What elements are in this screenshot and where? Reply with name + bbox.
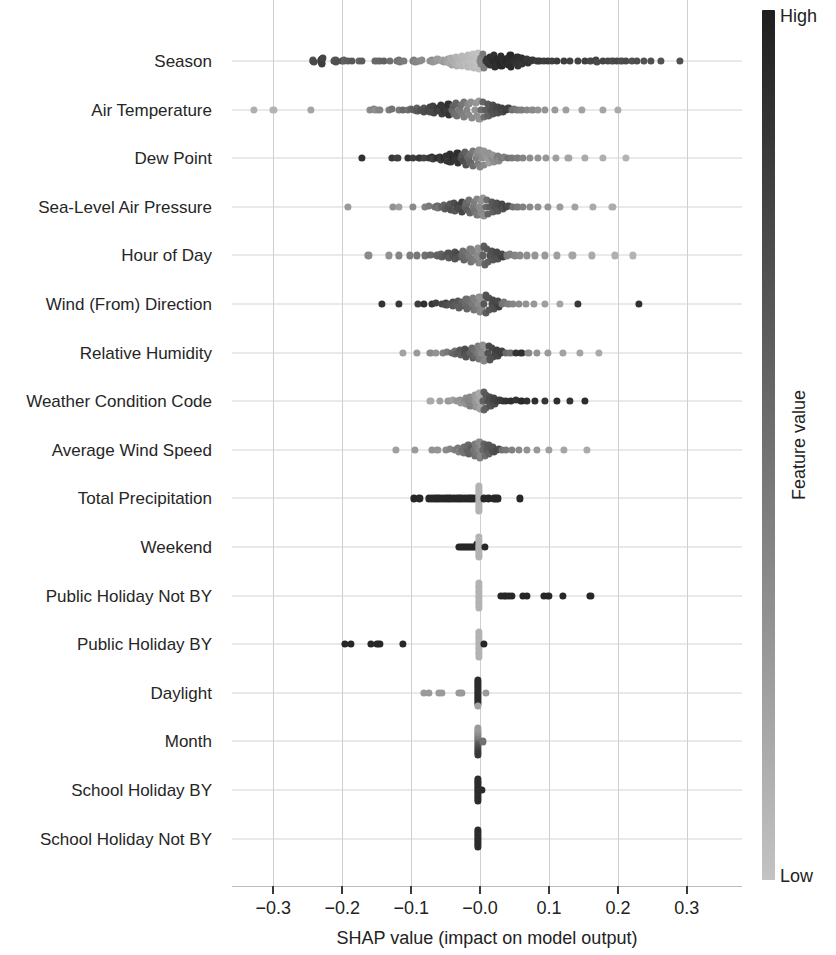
beeswarm-point <box>474 844 481 851</box>
beeswarm-point <box>523 592 530 599</box>
beeswarm-point <box>319 54 326 61</box>
beeswarm-point <box>401 57 408 64</box>
x-axis-tick <box>410 886 412 894</box>
beeswarm-point <box>543 155 550 162</box>
beeswarm-point <box>308 106 315 113</box>
y-axis-label: Relative Humidity <box>80 344 212 361</box>
beeswarm-point <box>475 604 482 611</box>
y-axis-label: Wind (From) Direction <box>46 296 212 313</box>
x-axis-tick-label: −0.3 <box>256 898 292 919</box>
y-axis-label: Season <box>154 53 212 70</box>
shap-beeswarm-figure: SeasonAir TemperatureDew PointSea-Level … <box>0 0 836 955</box>
beeswarm-point <box>533 349 540 356</box>
beeswarm-point <box>523 252 530 259</box>
x-axis-tick-label: 0.3 <box>674 898 699 919</box>
colorbar-low-label: Low <box>780 866 813 887</box>
beeswarm-point <box>418 56 425 63</box>
beeswarm-point <box>599 106 606 113</box>
beeswarm-point <box>534 155 541 162</box>
beeswarm-point <box>581 155 588 162</box>
beeswarm-point <box>376 106 383 113</box>
beeswarm-point <box>344 203 351 210</box>
beeswarm-point <box>478 786 485 793</box>
beeswarm-point <box>556 300 563 307</box>
x-axis: −0.3−0.2−0.1−0.00.10.20.3 SHAP value (im… <box>232 886 742 955</box>
beeswarm-point <box>562 106 569 113</box>
beeswarm-point <box>544 203 551 210</box>
x-axis-tick <box>548 886 550 894</box>
beeswarm-point <box>426 689 433 696</box>
beeswarm-point <box>554 252 561 259</box>
y-axis-label: Hour of Day <box>121 247 212 264</box>
y-axis-label: Weather Condition Code <box>26 393 212 410</box>
beeswarm-point <box>494 495 501 502</box>
beeswarm-point <box>534 203 541 210</box>
y-axis-label: Public Holiday BY <box>77 636 212 653</box>
beeswarm-point <box>379 300 386 307</box>
colorbar-gradient <box>762 10 775 880</box>
beeswarm-point <box>475 507 482 514</box>
beeswarm-point <box>386 252 393 259</box>
beeswarm-point <box>583 446 590 453</box>
y-axis-label: Public Holiday Not BY <box>46 587 212 604</box>
beeswarm-point <box>587 592 594 599</box>
beeswarm-point <box>420 300 427 307</box>
beeswarm-point <box>459 689 466 696</box>
y-axis-label: Sea-Level Air Pressure <box>38 198 212 215</box>
beeswarm-point <box>365 252 372 259</box>
y-axis-label: Month <box>165 733 212 750</box>
y-axis-label: Dew Point <box>135 150 212 167</box>
beeswarm-point <box>416 495 423 502</box>
x-axis-tick <box>686 886 688 894</box>
x-axis-title: SHAP value (impact on model output) <box>232 928 742 949</box>
beeswarm-point <box>611 252 618 259</box>
x-axis-tick-label: 0.1 <box>537 898 562 919</box>
beeswarm-point <box>474 702 481 709</box>
beeswarm-point <box>516 495 523 502</box>
beeswarm-point <box>551 106 558 113</box>
beeswarm-point <box>427 398 434 405</box>
beeswarm-point <box>561 446 568 453</box>
y-axis-label: Average Wind Speed <box>52 441 212 458</box>
beeswarm-point <box>395 252 402 259</box>
beeswarm-point <box>530 300 537 307</box>
beeswarm-point <box>552 155 559 162</box>
beeswarm-point <box>523 398 530 405</box>
y-axis-labels: SeasonAir TemperatureDew PointSea-Level … <box>0 0 222 955</box>
y-axis-label: Total Precipitation <box>78 490 212 507</box>
beeswarm-point <box>434 446 441 453</box>
beeswarm-point <box>545 446 552 453</box>
y-axis-label: Daylight <box>151 684 212 701</box>
beeswarm-point <box>559 592 566 599</box>
beeswarm-point <box>526 155 533 162</box>
beeswarm-point <box>475 553 482 560</box>
beeswarm-point <box>481 543 488 550</box>
beeswarm-point <box>438 689 445 696</box>
beeswarm-points-layer <box>232 0 742 886</box>
beeswarm-point <box>576 349 583 356</box>
beeswarm-point <box>614 106 621 113</box>
y-axis-label: Weekend <box>140 539 212 556</box>
beeswarm-point <box>569 252 576 259</box>
x-axis-tick-label: −0.2 <box>324 898 360 919</box>
beeswarm-point <box>544 349 551 356</box>
beeswarm-point <box>559 349 566 356</box>
beeswarm-point <box>358 155 365 162</box>
beeswarm-point <box>437 398 444 405</box>
beeswarm-point <box>541 398 548 405</box>
beeswarm-point <box>572 203 579 210</box>
x-axis-tick-label: −0.1 <box>393 898 429 919</box>
beeswarm-point <box>250 106 257 113</box>
beeswarm-point <box>579 106 586 113</box>
beeswarm-point <box>413 349 420 356</box>
beeswarm-point <box>522 300 529 307</box>
x-axis-tick <box>479 886 481 894</box>
beeswarm-point <box>525 349 532 356</box>
beeswarm-point <box>474 797 481 804</box>
beeswarm-point <box>395 300 402 307</box>
colorbar-title: Feature value <box>789 390 810 500</box>
beeswarm-point <box>399 349 406 356</box>
beeswarm-point <box>376 641 383 648</box>
y-axis-label: School Holiday Not BY <box>40 830 212 847</box>
beeswarm-point <box>270 106 277 113</box>
